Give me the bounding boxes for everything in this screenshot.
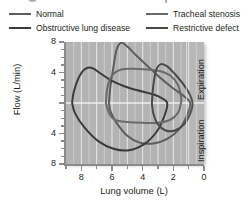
- x-minor-tick: [127, 166, 128, 169]
- x-tick-label: 2: [165, 172, 181, 182]
- legend-item-tracheal-stenosis: Tracheal stenosis: [146, 10, 240, 19]
- x-axis-title: Lung volume (L): [64, 185, 204, 196]
- legend-label: Tracheal stenosis: [173, 10, 240, 19]
- x-tick: [111, 166, 112, 171]
- x-minor-tick: [157, 166, 158, 169]
- x-minor-tick: [65, 166, 66, 169]
- x-tick: [173, 166, 174, 171]
- x-minor-tick: [188, 166, 189, 169]
- x-minor-tick: [96, 166, 97, 169]
- chart-legend: Normal Obstructive lung disease Tracheal…: [0, 0, 252, 36]
- x-axis-line: [64, 164, 204, 166]
- figure-root: Normal Obstructive lung disease Tracheal…: [0, 0, 252, 202]
- y-minor-tick: [61, 57, 64, 58]
- plot-area: [66, 42, 204, 164]
- expiration-label: Expiration: [196, 100, 237, 110]
- legend-swatch-icon: [146, 27, 168, 29]
- legend-label: Normal: [36, 10, 64, 19]
- y-axis-title: Flow (L/min): [11, 50, 22, 130]
- y-tick: [59, 133, 64, 134]
- y-minor-tick: [61, 118, 64, 119]
- y-axis-line: [64, 42, 66, 164]
- legend-item-restrictive-defect: Restrictive defect: [146, 24, 239, 33]
- y-minor-tick: [61, 148, 64, 149]
- legend-swatch-icon: [146, 13, 168, 15]
- series-curve: [106, 69, 182, 123]
- x-tick-label: 4: [135, 172, 151, 182]
- inspiration-label: Inspiration: [196, 162, 238, 172]
- x-tick: [142, 166, 143, 171]
- y-tick: [59, 102, 64, 103]
- y-minor-tick: [61, 140, 64, 141]
- y-minor-tick: [61, 125, 64, 126]
- y-minor-tick: [61, 64, 64, 65]
- x-tick: [81, 166, 82, 171]
- y-minor-tick: [61, 156, 64, 157]
- legend-item-obstructive-lung-disease: Obstructive lung disease: [9, 24, 130, 33]
- plot-svg: [66, 42, 204, 164]
- x-tick-label: 8: [73, 172, 89, 182]
- y-minor-tick: [61, 49, 64, 50]
- y-tick: [59, 163, 64, 164]
- y-minor-tick: [61, 79, 64, 80]
- x-tick-label: 0: [196, 172, 212, 182]
- y-minor-tick: [61, 87, 64, 88]
- x-tick-label: 6: [104, 172, 120, 182]
- flow-volume-loop-chart: 8448 86420 Flow (L/min) Lung volume (L) …: [0, 36, 252, 202]
- y-tick-label: 8: [42, 36, 56, 46]
- legend-label: Obstructive lung disease: [36, 24, 130, 33]
- y-minor-tick: [61, 110, 64, 111]
- y-tick-label: 8: [42, 158, 56, 168]
- legend-swatch-icon: [9, 13, 31, 15]
- legend-item-normal: Normal: [9, 10, 64, 19]
- legend-swatch-icon: [9, 27, 31, 29]
- inspiration-label-text: Inspiration: [196, 120, 206, 162]
- y-tick: [59, 41, 64, 42]
- y-tick: [59, 72, 64, 73]
- y-tick-label: 4: [42, 67, 56, 77]
- legend-label: Restrictive defect: [173, 24, 239, 33]
- expiration-label-text: Expiration: [196, 59, 206, 100]
- y-tick-label: 4: [42, 128, 56, 138]
- y-minor-tick: [61, 95, 64, 96]
